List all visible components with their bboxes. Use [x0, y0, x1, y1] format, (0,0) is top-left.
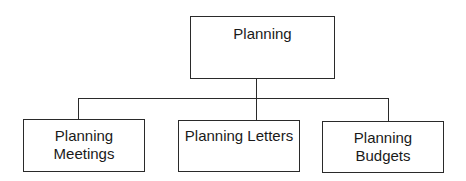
- child-node-label-line2: Meetings: [24, 145, 144, 163]
- child-node-planning-meetings: Planning Meetings: [23, 119, 145, 172]
- child-node-label-line1: Planning Letters: [179, 127, 299, 145]
- connector-right-vertical: [388, 98, 389, 121]
- connector-horizontal: [78, 98, 389, 99]
- root-node-label: Planning: [191, 25, 334, 43]
- child-node-label-line1: Planning: [323, 129, 443, 147]
- child-node-planning-letters: Planning Letters: [178, 120, 300, 172]
- connector-left-vertical: [78, 98, 79, 119]
- child-node-label-line1: Planning: [24, 127, 144, 145]
- root-node-planning: Planning: [190, 16, 335, 79]
- child-node-label-line2: Budgets: [323, 147, 443, 165]
- child-node-planning-budgets: Planning Budgets: [322, 121, 444, 173]
